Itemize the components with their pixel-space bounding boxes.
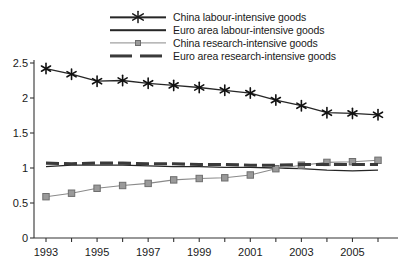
y-axis-tick-label: 1 — [2, 162, 28, 174]
y-axis-tick-label: 1.5 — [2, 127, 28, 139]
data-point-marker — [68, 190, 74, 196]
data-point-marker — [271, 95, 280, 105]
y-axis-tick-label: 0 — [2, 232, 28, 244]
data-point-marker — [145, 180, 151, 186]
data-point-marker — [196, 175, 202, 181]
x-axis-tick-label: 2001 — [230, 246, 270, 258]
series-line — [41, 63, 382, 120]
x-axis-tick-label: 1999 — [179, 246, 219, 258]
y-axis-tick-label: 0.5 — [2, 197, 28, 209]
x-axis-tick-label: 1997 — [128, 246, 168, 258]
axes — [34, 60, 398, 238]
data-point-marker — [297, 101, 306, 111]
plot-area: 00.511.522.51993199519971999200120032005 — [0, 0, 412, 273]
data-point-marker — [119, 182, 125, 188]
y-axis-tick-label: 2.5 — [2, 57, 28, 69]
data-point-marker — [94, 185, 100, 191]
x-axis-tick-label: 1995 — [77, 246, 117, 258]
x-axis-tick-label: 2003 — [281, 246, 321, 258]
data-point-marker — [67, 69, 76, 79]
data-point-marker — [375, 157, 381, 163]
data-point-marker — [222, 175, 228, 181]
data-point-marker — [170, 177, 176, 183]
data-point-marker — [41, 63, 50, 73]
x-axis-tick-label: 1993 — [26, 246, 66, 258]
plot-svg — [0, 0, 412, 273]
chart-container: China labour-intensive goods Euro area l… — [0, 0, 412, 273]
y-axis-tick-label: 2 — [2, 92, 28, 104]
x-axis-tick-label: 2005 — [332, 246, 372, 258]
data-point-marker — [43, 194, 49, 200]
data-point-marker — [247, 172, 253, 178]
